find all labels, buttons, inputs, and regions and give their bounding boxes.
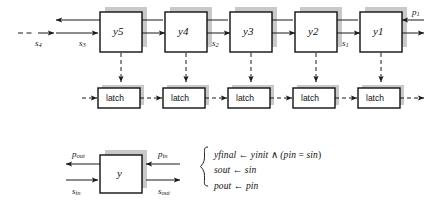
signal-label-s3: s3 <box>79 39 86 49</box>
figure-canvas: y5 y4 y3 y2 y1 s4 s3 s2 s1 p1 latch latc… <box>0 0 440 208</box>
cell-label-y5: y5 <box>113 25 123 37</box>
port-label-p-out: pout <box>72 150 85 160</box>
cell-label-y1: y1 <box>373 25 383 37</box>
port-label-s-out: sout <box>158 187 170 197</box>
cell-label-y4: y4 <box>178 25 188 37</box>
port-label-p-in: pin <box>158 150 168 160</box>
cell-label-y2: y2 <box>308 25 318 37</box>
latch-label-3: latch <box>236 93 254 103</box>
signal-label-s2: s2 <box>212 39 219 49</box>
latch-label-5: latch <box>366 93 384 103</box>
cell-to-latch-drops <box>121 53 381 82</box>
equations-brace <box>201 147 209 186</box>
port-label-s-in: sin <box>72 187 81 197</box>
latch-label-2: latch <box>171 93 189 103</box>
latch-label-4: latch <box>301 93 319 103</box>
equation-s-out: sout ← sin <box>214 165 256 175</box>
cell-label-y3: y3 <box>243 25 253 37</box>
equation-p-out: pout ← pin <box>214 181 258 191</box>
signal-label-p1: p1 <box>412 8 420 18</box>
signal-label-s4: s4 <box>35 39 42 49</box>
equation-y-final: yfinal ← yinit ∧ (pin = sin) <box>214 149 321 160</box>
latch-label-1: latch <box>106 93 124 103</box>
signal-label-s1: s1 <box>342 39 349 49</box>
detail-cell-label: y <box>117 167 122 179</box>
